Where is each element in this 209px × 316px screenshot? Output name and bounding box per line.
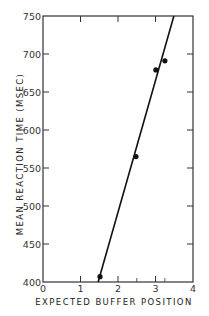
fitted-line	[98, 16, 174, 282]
x-axis-label: EXPECTED BUFFER POSITION	[35, 297, 192, 307]
y-tick-label: 700	[23, 49, 41, 60]
x-tick-label: 1	[77, 283, 83, 294]
y-tick-label: 500	[23, 201, 41, 212]
x-tick-label: 2	[115, 283, 121, 294]
x-tick-label: 3	[152, 283, 158, 294]
data-point	[162, 58, 167, 63]
y-tick-label: 450	[23, 239, 41, 250]
y-tick-label: 550	[23, 163, 41, 174]
y-tick-label: 400	[23, 277, 41, 288]
chart: 01234400450500550600650700750EXPECTED BU…	[0, 0, 209, 316]
y-tick-label: 750	[23, 11, 41, 22]
y-tick-label: 600	[23, 125, 41, 136]
x-tick-label: 4	[190, 283, 196, 294]
y-axis-label: MEAN REACTION TIME (MSEC)	[15, 73, 25, 236]
y-tick-label: 650	[23, 87, 41, 98]
plot-frame	[43, 16, 193, 282]
